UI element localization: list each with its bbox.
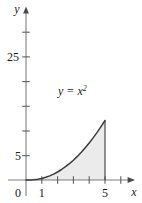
origin-label: 0 — [15, 186, 21, 200]
curve-equation-label: y = x2 — [57, 84, 87, 98]
y-tick-label-5: 5 — [15, 149, 21, 163]
svg-text:y = x2: y = x2 — [57, 84, 87, 98]
y-axis-arrowhead — [23, 7, 29, 14]
y-tick-label-25: 25 — [7, 50, 19, 64]
x-tick-label-1: 1 — [39, 186, 45, 200]
curve-equation-base: y = x — [57, 84, 83, 98]
x-axis-label: x — [130, 185, 137, 199]
curve-equation-exponent: 2 — [83, 84, 87, 93]
x-tick-label-5: 5 — [102, 186, 108, 200]
x-axis-arrowhead — [128, 177, 135, 183]
area-under-parabola-figure: y x 0 5 25 1 5 y = x2 — [0, 0, 142, 203]
shaded-area-region — [26, 121, 105, 181]
y-axis-label: y — [13, 2, 20, 16]
plot-svg: y x 0 5 25 1 5 y = x2 — [0, 0, 142, 203]
